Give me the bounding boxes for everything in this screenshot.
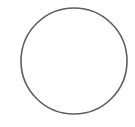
circle-outline [21, 8, 127, 114]
diagram-canvas [0, 0, 135, 127]
